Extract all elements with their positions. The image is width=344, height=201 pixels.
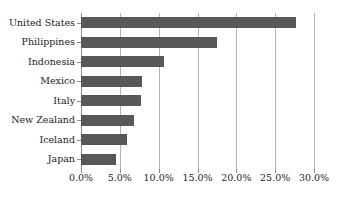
category-axis-tick-mark <box>77 81 81 82</box>
bar-row <box>81 150 314 170</box>
category-axis-label: Mexico <box>40 75 75 86</box>
value-axis-tick-label: 10.0% <box>144 172 174 183</box>
category-axis-tick-mark <box>77 62 81 63</box>
category-axis-label: United States <box>9 17 75 28</box>
category-axis-tick-mark <box>77 101 81 102</box>
plot-area <box>81 13 314 169</box>
bar <box>81 56 164 67</box>
bar <box>81 76 142 87</box>
gridline <box>314 13 315 169</box>
bar-row <box>81 130 314 150</box>
bar <box>81 134 127 145</box>
bar-row <box>81 52 314 72</box>
category-axis-label: Indonesia <box>28 56 75 67</box>
category-axis-labels: United StatesPhilippinesIndonesiaMexicoI… <box>0 13 75 169</box>
bar <box>81 154 116 165</box>
category-axis-label: Italy <box>53 95 75 106</box>
value-axis-tick-label: 0.0% <box>69 172 93 183</box>
value-axis-tick-label: 15.0% <box>182 172 212 183</box>
value-axis-tick-label: 5.0% <box>108 172 132 183</box>
category-axis-tick-mark <box>77 42 81 43</box>
bar-row <box>81 72 314 92</box>
category-axis-tick-mark <box>77 140 81 141</box>
bar-row <box>81 111 314 131</box>
bar <box>81 95 141 106</box>
category-axis-tick-mark <box>77 120 81 121</box>
bar <box>81 37 217 48</box>
value-axis-tick-label: 25.0% <box>260 172 290 183</box>
category-axis-label: Iceland <box>39 134 75 145</box>
bar-row <box>81 33 314 53</box>
bar <box>81 17 296 28</box>
bar <box>81 115 134 126</box>
value-axis-tick-labels: 0.0%5.0%10.0%15.0%20.0%25.0%30.0% <box>0 172 344 186</box>
bar-chart: United StatesPhilippinesIndonesiaMexicoI… <box>0 0 344 201</box>
category-axis-label: New Zealand <box>11 114 75 125</box>
value-axis-tick-label: 30.0% <box>299 172 329 183</box>
bar-row <box>81 13 314 33</box>
bar-row <box>81 91 314 111</box>
category-axis-label: Philippines <box>22 36 75 47</box>
category-axis-tick-mark <box>77 23 81 24</box>
category-axis-tick-mark <box>77 159 81 160</box>
value-axis-tick-label: 20.0% <box>221 172 251 183</box>
category-axis-label: Japan <box>48 153 75 164</box>
